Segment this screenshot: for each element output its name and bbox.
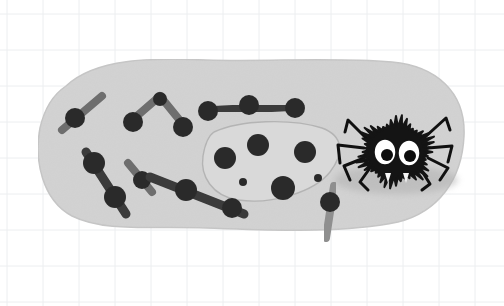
stick-node (173, 117, 193, 137)
stick-node (153, 92, 167, 106)
stick-node (123, 112, 143, 132)
illustration-canvas: Spider on a rock illustration Grayscale … (0, 0, 504, 306)
stick-node (320, 192, 340, 212)
stick-node (285, 98, 305, 118)
right-eye-pupil (404, 150, 416, 162)
stick-node (65, 108, 85, 128)
right-eye (398, 140, 420, 166)
patch-dot (239, 178, 247, 186)
patch-dot (214, 147, 236, 169)
stick-node (222, 198, 242, 218)
scene-svg (0, 0, 504, 306)
stick-node (175, 179, 197, 201)
stick-node (83, 152, 105, 174)
patch-dot (294, 141, 316, 163)
patch-dot (247, 134, 269, 156)
patch-dot (314, 174, 322, 182)
stick-node (104, 186, 126, 208)
stick-node (198, 101, 218, 121)
left-eye-pupil (381, 149, 393, 161)
stick-node (239, 95, 259, 115)
patch-dot (271, 176, 295, 200)
left-eye (374, 139, 396, 165)
